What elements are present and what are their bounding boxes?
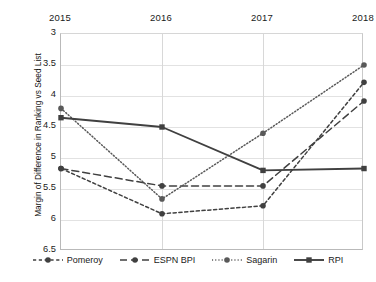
series-sagarin xyxy=(58,62,367,202)
data-point xyxy=(58,166,64,172)
legend-label: Sagarin xyxy=(246,255,277,265)
data-point xyxy=(159,124,164,129)
legend-item-pomeroy[interactable]: Pomeroy xyxy=(33,255,103,265)
data-point xyxy=(58,106,64,112)
series-espn-bpi xyxy=(58,98,367,189)
x-axis-label-2017: 2017 xyxy=(237,12,287,23)
legend-swatch-dashed-fine xyxy=(33,255,63,265)
data-point xyxy=(58,115,63,120)
data-point xyxy=(260,168,265,173)
data-point xyxy=(361,62,367,68)
y-axis-label-4: 4 xyxy=(30,89,56,99)
legend-item-espn-bpi[interactable]: ESPN BPI xyxy=(120,255,196,265)
chart-legend: PomeroyESPN BPISagarinRPI xyxy=(0,255,376,265)
series-layer xyxy=(61,34,364,251)
y-axis-label-3.5: 3.5 xyxy=(30,58,56,68)
data-point xyxy=(159,183,165,189)
legend-item-rpi[interactable]: RPI xyxy=(294,255,343,265)
data-point xyxy=(260,183,266,189)
series-rpi xyxy=(58,115,366,173)
line-chart: 2015201620172018 Margin of Difference in… xyxy=(0,0,376,282)
y-axis-label-4.5: 4.5 xyxy=(30,120,56,130)
series-line xyxy=(61,118,364,171)
x-axis-label-2016: 2016 xyxy=(136,12,186,23)
legend-item-sagarin[interactable]: Sagarin xyxy=(212,255,277,265)
data-point xyxy=(260,203,266,209)
y-axis-label-5.5: 5.5 xyxy=(30,182,56,192)
legend-label: RPI xyxy=(328,255,343,265)
legend-swatch-solid xyxy=(294,255,324,265)
data-point xyxy=(361,98,367,104)
series-line xyxy=(61,101,364,186)
legend-swatch-dashed-long xyxy=(120,255,150,265)
y-axis-tick-labels: 33.544.555.566.5 xyxy=(26,0,56,282)
y-axis-label-5: 5 xyxy=(30,151,56,161)
y-axis-label-6: 6 xyxy=(30,213,56,223)
data-point xyxy=(159,196,165,202)
plot-area xyxy=(60,33,363,250)
data-point xyxy=(260,130,266,136)
data-point xyxy=(159,211,165,217)
legend-label: ESPN BPI xyxy=(154,255,196,265)
legend-label: Pomeroy xyxy=(67,255,103,265)
data-point xyxy=(361,80,367,86)
legend-swatch-dotted xyxy=(212,255,242,265)
y-axis-label-6.5: 6.5 xyxy=(30,244,56,254)
series-line xyxy=(61,65,364,199)
data-point xyxy=(361,166,366,171)
y-axis-label-3: 3 xyxy=(30,27,56,37)
x-axis-label-2018: 2018 xyxy=(338,12,376,23)
